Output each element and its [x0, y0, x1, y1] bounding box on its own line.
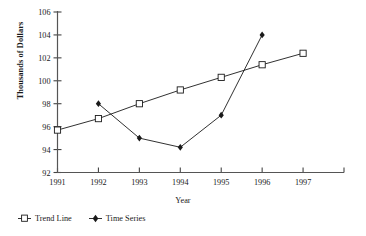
x-tick-label: 1996	[254, 178, 270, 187]
y-tick-label: 96	[42, 123, 50, 132]
y-tick-label: 92	[42, 169, 50, 178]
y-tick-label: 104	[38, 31, 50, 40]
x-tick-label: 1992	[90, 178, 106, 187]
y-tick-label: 102	[38, 54, 50, 63]
legend-label-trend-line: Trend Line	[35, 214, 72, 223]
x-axis-ticks: 1991199219931994199519961997	[49, 168, 344, 187]
chart-legend: Trend Line Time Series	[18, 214, 145, 223]
data-point-marker	[260, 32, 265, 39]
x-tick-label: 1995	[213, 178, 229, 187]
data-point-marker	[300, 50, 306, 56]
open-square-with-line-icon	[18, 214, 31, 223]
data-point-marker	[218, 74, 224, 80]
data-point-marker	[259, 62, 265, 68]
data-point-marker	[178, 144, 183, 151]
data-point-marker	[136, 101, 142, 107]
x-tick-label: 1991	[49, 178, 65, 187]
data-point-marker	[95, 116, 101, 122]
data-point-marker	[137, 135, 142, 142]
x-tick-label: 1997	[295, 178, 311, 187]
x-axis-title: Year	[0, 196, 366, 205]
legend-label-time-series: Time Series	[106, 214, 146, 223]
data-point-marker	[54, 127, 60, 133]
data-series-layer	[54, 32, 306, 151]
data-point-marker	[177, 87, 183, 93]
y-tick-label: 98	[42, 100, 50, 109]
x-tick-label: 1993	[131, 178, 147, 187]
data-point-marker	[96, 100, 101, 107]
legend-item-trend-line: Trend Line	[18, 214, 72, 223]
y-tick-label: 100	[38, 77, 50, 86]
legend-item-time-series: Time Series	[89, 214, 146, 223]
chart-container: Thousands of Dollars 9294969810010210410…	[0, 0, 366, 236]
data-point-marker	[219, 112, 224, 119]
y-tick-label: 94	[42, 146, 50, 155]
y-tick-label: 106	[38, 8, 50, 17]
x-tick-label: 1994	[172, 178, 188, 187]
filled-diamond-icon	[89, 214, 102, 223]
